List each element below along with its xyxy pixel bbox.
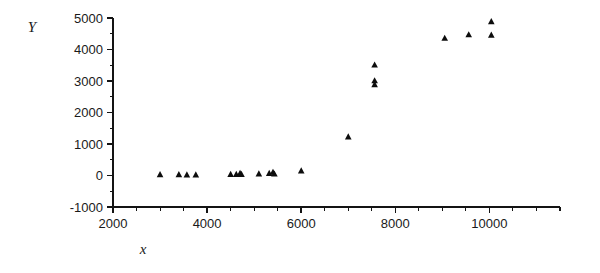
y-tick-label: 3000 (74, 74, 103, 89)
x-tick-label: 8000 (381, 216, 410, 231)
data-point-marker (298, 167, 305, 173)
x-tick-label: 10000 (471, 216, 507, 231)
scatter-plot-figure: -100001000200030004000500020004000600080… (0, 0, 600, 273)
data-point-marker (441, 35, 448, 41)
y-tick-label: 0 (96, 168, 103, 183)
x-tick-label: 6000 (287, 216, 316, 231)
data-point-marker (465, 31, 472, 37)
data-point-marker (157, 171, 164, 177)
y-tick-label: 5000 (74, 11, 103, 26)
y-tick-label: 4000 (74, 42, 103, 57)
y-tick-label: 1000 (74, 137, 103, 152)
plot-canvas: -100001000200030004000500020004000600080… (0, 0, 600, 273)
data-point-marker (488, 31, 495, 37)
y-tick-label: -1000 (70, 200, 103, 215)
data-point-marker (256, 170, 263, 176)
data-point-marker (488, 18, 495, 24)
y-axis-title: Y (28, 19, 38, 35)
x-tick-label: 4000 (193, 216, 222, 231)
data-point-marker (176, 171, 183, 177)
data-point-marker (345, 133, 352, 139)
data-point-marker (193, 171, 200, 177)
data-point-marker (184, 171, 191, 177)
x-axis-title: x (139, 241, 147, 257)
x-tick-label: 2000 (99, 216, 128, 231)
data-point-marker (371, 61, 378, 67)
y-tick-label: 2000 (74, 105, 103, 120)
data-point-marker (227, 171, 234, 177)
